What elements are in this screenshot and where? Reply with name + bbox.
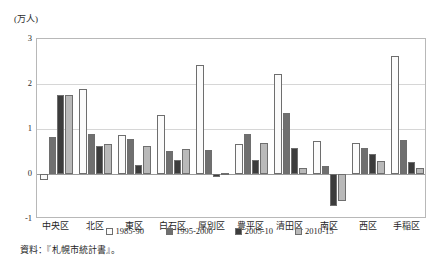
bar-group — [349, 39, 388, 217]
bar — [40, 174, 48, 180]
bar-group — [193, 39, 232, 217]
bar — [49, 137, 57, 174]
bar — [252, 160, 260, 174]
bar — [118, 135, 126, 174]
bar — [235, 144, 243, 174]
legend-label: 1995-2000 — [176, 226, 213, 236]
bar-group — [310, 39, 349, 217]
bar — [166, 151, 174, 174]
bar — [135, 165, 143, 174]
bar-group — [115, 39, 154, 217]
bar — [313, 141, 321, 174]
bar — [221, 173, 229, 175]
bar-group — [37, 39, 76, 217]
legend-label: 2005-10 — [245, 226, 273, 236]
legend-swatch-icon — [166, 228, 173, 235]
bar — [400, 140, 408, 174]
bar-group — [388, 39, 427, 217]
bar — [299, 168, 307, 174]
y-tick-label: 2 — [28, 79, 32, 88]
bar — [377, 161, 385, 174]
bar-group — [76, 39, 115, 217]
legend-label: 1985-90 — [116, 226, 144, 236]
chart-legend: 1985-901995-20002005-102010-15 — [0, 226, 439, 236]
bar — [244, 134, 252, 175]
bar — [157, 115, 165, 174]
bar — [322, 166, 330, 174]
bar — [369, 154, 377, 174]
bar — [274, 74, 282, 174]
bar — [143, 146, 151, 174]
legend-item-3[interactable]: 2010-15 — [295, 226, 333, 236]
y-tick-label: 0 — [28, 169, 32, 178]
bar-groups — [37, 39, 425, 217]
legend-swatch-icon — [295, 228, 302, 235]
legend-item-0[interactable]: 1985-90 — [106, 226, 144, 236]
bar — [65, 95, 73, 174]
y-tick-label: 1 — [28, 124, 32, 133]
y-tick-label: -1 — [25, 214, 32, 223]
bar — [127, 139, 135, 174]
legend-label: 2010-15 — [305, 226, 333, 236]
bar — [330, 174, 338, 206]
bar — [88, 134, 96, 174]
bar — [291, 148, 299, 174]
bar — [57, 95, 65, 174]
bar — [408, 162, 416, 174]
bar — [260, 143, 268, 175]
y-axis-tick-labels: 3210-1 — [0, 0, 36, 263]
bar — [283, 113, 291, 174]
bar — [79, 89, 87, 174]
bar-group — [271, 39, 310, 217]
bar — [182, 149, 190, 174]
bar — [416, 168, 424, 174]
chart-figure: (万人) 3210-1 中央区北区東区白石区厚別区豊平区清田区南区西区手稲区 1… — [0, 0, 439, 263]
bar-group — [232, 39, 271, 217]
bar — [361, 148, 369, 174]
legend-item-1[interactable]: 1995-2000 — [166, 226, 213, 236]
plot-area — [36, 38, 426, 218]
bar — [174, 160, 182, 174]
bar — [213, 174, 221, 177]
bar — [338, 174, 346, 201]
bar — [104, 144, 112, 174]
y-tick-label: 3 — [28, 34, 32, 43]
bar — [391, 56, 399, 174]
legend-item-2[interactable]: 2005-10 — [235, 226, 273, 236]
bar — [205, 150, 213, 174]
source-note: 資料：『札幌市統計書』。 — [20, 243, 120, 256]
bar — [196, 65, 204, 174]
bar-group — [154, 39, 193, 217]
bar — [96, 146, 104, 174]
legend-swatch-icon — [106, 228, 113, 235]
legend-swatch-icon — [235, 228, 242, 235]
bar — [352, 143, 360, 174]
